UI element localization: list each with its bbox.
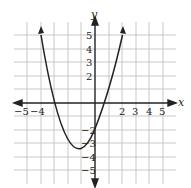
y-tick-m4: −4 — [81, 152, 96, 163]
y-tick-m5: −5 — [81, 165, 96, 176]
y-tick-3: 3 — [86, 57, 92, 68]
y-tick-m3: −3 — [81, 138, 96, 149]
parabola-graph: y x −5 −4 2 3 4 5 5 4 3 2 −2 −3 −4 −5 — [0, 0, 191, 188]
x-tick-2: 2 — [119, 106, 125, 117]
x-tick-3: 3 — [132, 106, 138, 117]
y-tick-2: 2 — [86, 71, 92, 82]
y-tick-m2: −2 — [81, 125, 96, 136]
curve-left-arrow-icon — [38, 26, 44, 34]
x-tick-m5: −5 — [14, 106, 29, 117]
y-tick-4: 4 — [86, 44, 92, 55]
y-axis-down-arrow-icon — [92, 179, 98, 187]
curve-right-arrow-icon — [120, 26, 126, 34]
y-tick-5: 5 — [86, 30, 92, 41]
y-axis-label: y — [90, 8, 98, 21]
x-axis-label: x — [178, 96, 185, 109]
x-tick-m4: −4 — [30, 106, 45, 117]
x-axis-right-arrow-icon — [168, 100, 176, 106]
x-tick-4: 4 — [146, 106, 152, 117]
x-tick-5: 5 — [159, 106, 165, 117]
